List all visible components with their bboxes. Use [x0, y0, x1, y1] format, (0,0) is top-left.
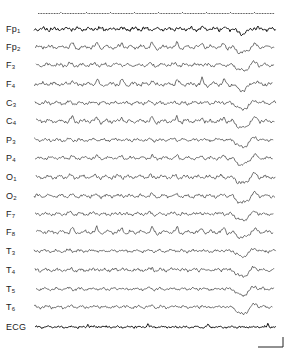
channel-label-c3: C3 [6, 98, 16, 110]
trace-o1 [36, 172, 275, 183]
channel-label-f7: F7 [6, 209, 15, 221]
trace-o2 [34, 191, 275, 203]
channel-label-t3: T3 [6, 246, 15, 258]
trace-f7 [35, 211, 273, 221]
time-marker-row [38, 13, 274, 14]
trace-c3 [35, 100, 276, 110]
trace-fp2 [35, 42, 274, 54]
channel-label-fp1: Fp1 [6, 24, 20, 36]
trace-f4 [34, 77, 272, 92]
channel-label-ecg: ECG [6, 322, 26, 332]
channel-label-t5: T5 [6, 284, 15, 296]
channel-label-t4: T4 [6, 265, 15, 277]
trace-t4 [35, 266, 274, 277]
trace-t3 [34, 248, 276, 257]
channel-label-f3: F3 [6, 60, 15, 72]
channel-label-t6: T6 [6, 302, 15, 314]
channel-label-f8: F8 [6, 227, 15, 239]
trace-fp1 [34, 26, 276, 36]
eeg-traces [0, 0, 286, 354]
channel-label-o2: O2 [6, 191, 17, 203]
trace-ecg [35, 323, 276, 328]
trace-p3 [34, 137, 273, 148]
trace-f8 [36, 226, 273, 239]
channel-label-fp2: Fp2 [6, 42, 20, 54]
trace-f3 [36, 61, 274, 72]
channel-label-p4: P4 [6, 153, 16, 165]
trace-t5 [36, 286, 274, 296]
channel-label-c4: C4 [6, 116, 16, 128]
trace-t6 [34, 303, 272, 315]
channel-label-p3: P3 [6, 135, 16, 147]
channel-label-o1: O1 [6, 172, 17, 184]
trace-p4 [35, 154, 273, 166]
scale-bar [258, 337, 283, 347]
trace-c4 [36, 115, 274, 128]
channel-label-f4: F4 [6, 79, 15, 91]
